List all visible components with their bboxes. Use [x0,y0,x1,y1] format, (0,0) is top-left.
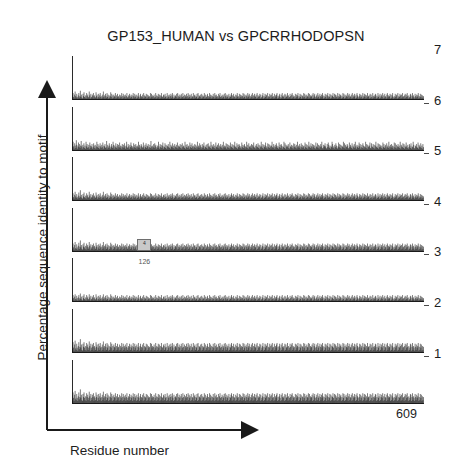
panel-number-5: 5 [434,143,456,158]
y-axis-label: Percentage sequence identity to motif [35,88,50,408]
panel-trace [72,258,424,302]
chart-panel [72,157,424,201]
chart-panel [72,56,424,100]
panel-boundary-tick [424,305,429,306]
panel-trace [72,309,424,353]
panel-trace [72,360,424,404]
x-axis-label: Residue number [70,443,169,458]
panel-boundary-tick [424,153,429,154]
panel-boundary-tick [424,103,429,104]
panel-number-7: 7 [434,42,456,57]
panel-number-1: 1 [434,346,456,361]
panel-boundary-tick [424,356,429,357]
panel-number-2: 2 [434,295,456,310]
panel-boundary-tick [424,254,429,255]
panel-trace [72,157,424,201]
motif-annotation-box[interactable]: 4 [137,239,151,251]
chart-panel [72,208,424,252]
chart-panel [72,360,424,404]
chart-panel [72,309,424,353]
panel-trace [72,107,424,151]
x-axis-end-label: 609 [396,407,417,421]
panel-number-4: 4 [434,194,456,209]
chart-panel [72,107,424,151]
panel-number-3: 3 [434,244,456,259]
panel-trace [72,208,424,252]
chart-panel [72,258,424,302]
panel-number-6: 6 [434,93,456,108]
panel-stack [72,58,424,408]
motif-annotation-label: 126 [130,258,158,265]
panel-boundary-tick [424,204,429,205]
chart-root: GP153_HUMAN vs GPCRRHODOPSN Percentage s… [0,0,472,474]
panel-trace [72,56,424,100]
